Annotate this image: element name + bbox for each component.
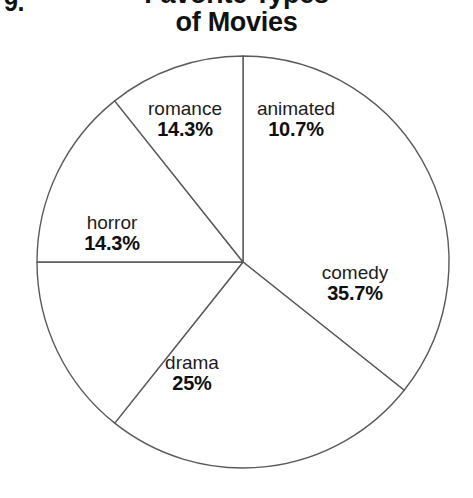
slice-label-comedy: comedy 35.7% — [322, 262, 389, 304]
pie-chart: comedy 35.7% drama 25% horror 14.3% roma… — [0, 0, 473, 498]
slice-category-comedy: comedy — [322, 262, 389, 283]
pie-chart-svg — [0, 0, 473, 498]
slice-percent-comedy: 35.7% — [322, 283, 389, 304]
slice-category-horror: horror — [84, 212, 140, 233]
slice-percent-horror: 14.3% — [84, 233, 140, 254]
slice-percent-animated: 10.7% — [257, 119, 335, 140]
slice-percent-drama: 25% — [165, 373, 219, 394]
slice-percent-romance: 14.3% — [148, 119, 222, 140]
slice-category-drama: drama — [165, 352, 219, 373]
slice-label-horror: horror 14.3% — [84, 212, 140, 254]
slice-label-drama: drama 25% — [165, 352, 219, 394]
slice-category-romance: romance — [148, 98, 222, 119]
worksheet-page: 9. Favorite Types of Movies comedy 35.7%… — [0, 0, 473, 498]
slice-category-animated: animated — [257, 98, 335, 119]
slice-label-romance: romance 14.3% — [148, 98, 222, 140]
slice-label-animated: animated 10.7% — [257, 98, 335, 140]
